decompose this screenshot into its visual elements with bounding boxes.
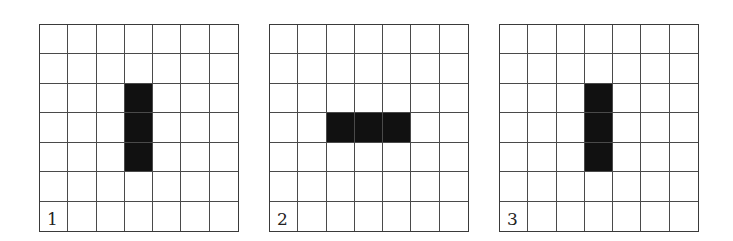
grid-cell (670, 84, 698, 113)
grid-cell (153, 172, 181, 201)
grid-cell (181, 84, 209, 113)
grid-cell (557, 25, 585, 54)
grid-cell (68, 202, 96, 231)
grid-cell (500, 172, 528, 201)
grid-cell (383, 172, 411, 201)
grid-cell (670, 113, 698, 142)
grid-cell (613, 54, 641, 83)
grid-cell (327, 25, 355, 54)
grid-cell (411, 172, 439, 201)
grid-cell (528, 113, 556, 142)
grid-cell (411, 143, 439, 172)
grid-cell (411, 54, 439, 83)
grid-cell (68, 25, 96, 54)
grid-cell (411, 113, 439, 142)
grid-cell (68, 143, 96, 172)
grid-cell (641, 25, 669, 54)
grid-cell (125, 172, 153, 201)
filled-cell (125, 113, 153, 142)
grid-cell (68, 54, 96, 83)
filled-cell (585, 113, 613, 142)
grid-cell (613, 84, 641, 113)
grid-cell (613, 25, 641, 54)
grid-cell (153, 25, 181, 54)
grid-cell (440, 84, 468, 113)
grid-cell (68, 84, 96, 113)
grid-cell (383, 202, 411, 231)
grid-cell (270, 84, 298, 113)
grid-cell (298, 143, 326, 172)
grid-cell (557, 54, 585, 83)
grid-panel-2: 2 (269, 24, 469, 232)
grid-cell (641, 143, 669, 172)
grid-cell (500, 54, 528, 83)
grid-cell (641, 202, 669, 231)
grid-cell (440, 54, 468, 83)
grid-cell (327, 54, 355, 83)
filled-cell (125, 143, 153, 172)
grid-cell (298, 84, 326, 113)
grid-cell (210, 172, 238, 201)
grid-cell (411, 25, 439, 54)
grid-panel-1: 1 (39, 24, 239, 232)
grid-cell (181, 113, 209, 142)
filled-cell (327, 113, 355, 142)
grid-cell (440, 25, 468, 54)
grid-cell (210, 84, 238, 113)
grid-cell (440, 172, 468, 201)
grid (269, 24, 469, 232)
grid-cell (670, 172, 698, 201)
grid-cell (153, 202, 181, 231)
grid-cell (181, 143, 209, 172)
grid-cell (585, 172, 613, 201)
grid-cell (153, 54, 181, 83)
grid-cell (210, 54, 238, 83)
grid-cell (557, 172, 585, 201)
grid-cell (355, 54, 383, 83)
grid-cell (440, 113, 468, 142)
grid-cell (68, 113, 96, 142)
grid-cell (298, 113, 326, 142)
grid-cell (40, 25, 68, 54)
grid-cell (670, 202, 698, 231)
grid-cell (557, 84, 585, 113)
grid-cell (68, 172, 96, 201)
grid-cell (40, 113, 68, 142)
grid-cell (383, 143, 411, 172)
grid-panel-3: 3 (499, 24, 699, 232)
filled-cell (585, 84, 613, 113)
grid-cell (528, 172, 556, 201)
grid-cell (500, 25, 528, 54)
grid-cell (411, 84, 439, 113)
grid-cell (440, 143, 468, 172)
grid-cell (670, 54, 698, 83)
grid-cell (383, 54, 411, 83)
grid-cell (641, 113, 669, 142)
grid-cell (125, 25, 153, 54)
grid-cell (440, 202, 468, 231)
grid-cell (270, 113, 298, 142)
grid-cell (327, 172, 355, 201)
grid-cell (641, 84, 669, 113)
grid-cell (585, 202, 613, 231)
panel-label: 2 (277, 211, 288, 228)
grid-cell (210, 202, 238, 231)
grid-cell (557, 202, 585, 231)
grid-cell (641, 54, 669, 83)
grid-cell (97, 202, 125, 231)
grid-cell (641, 172, 669, 201)
grid-cell (528, 54, 556, 83)
filled-cell (125, 84, 153, 113)
grid-cell (97, 25, 125, 54)
grid-cell (670, 143, 698, 172)
grid-cell (97, 84, 125, 113)
grid-cell (97, 54, 125, 83)
grid-cell (613, 172, 641, 201)
grid-cell (270, 172, 298, 201)
filled-cell (383, 113, 411, 142)
grid-cell (97, 113, 125, 142)
grid-cell (125, 202, 153, 231)
grid-cell (327, 202, 355, 231)
grid-cell (613, 143, 641, 172)
grid-cell (383, 84, 411, 113)
